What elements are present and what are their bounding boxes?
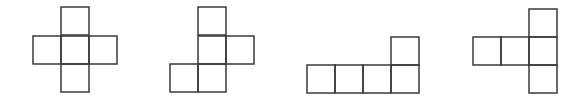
net-square <box>363 65 391 93</box>
net-square <box>501 37 529 65</box>
net-square <box>529 37 557 65</box>
net-square <box>391 65 419 93</box>
net-square <box>170 64 198 92</box>
t-net <box>473 9 557 93</box>
net-square <box>198 64 226 92</box>
net-square <box>61 36 89 64</box>
net-square <box>473 37 501 65</box>
cube-nets-diagram <box>0 0 585 101</box>
net-square <box>335 65 363 93</box>
net-square <box>33 36 61 64</box>
net-square <box>198 7 226 35</box>
net-square <box>61 7 89 35</box>
net-square <box>391 37 419 65</box>
net-square <box>61 64 89 92</box>
cross-net <box>33 7 117 92</box>
net-square <box>307 65 335 93</box>
net-square <box>226 36 254 64</box>
net-square <box>529 9 557 37</box>
zigzag-net <box>170 7 254 92</box>
net-square <box>89 36 117 64</box>
net-square <box>529 65 557 93</box>
l-net <box>307 37 419 93</box>
net-square <box>198 36 226 64</box>
